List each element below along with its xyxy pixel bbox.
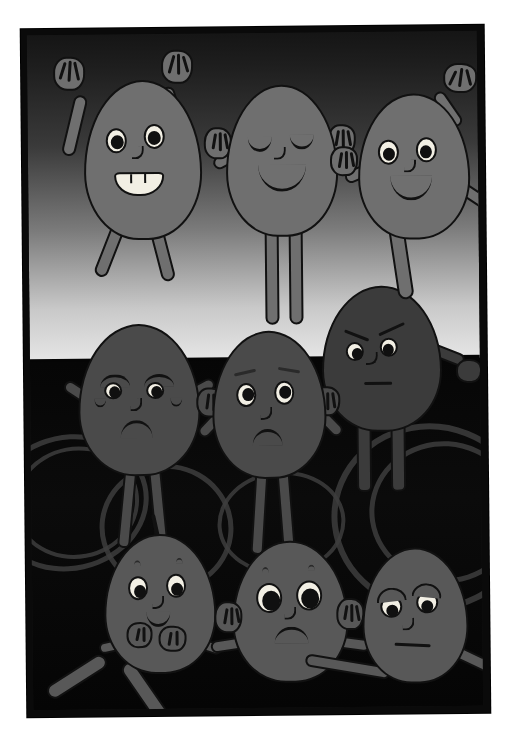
body: [225, 84, 338, 237]
finger: [175, 631, 178, 646]
character-middle-right: [321, 285, 442, 432]
character-bottom-left: [104, 533, 217, 674]
hand-left: [214, 601, 242, 633]
finger: [338, 152, 344, 168]
hand-right: [443, 63, 477, 93]
finger: [73, 62, 80, 81]
hand-right: [456, 359, 482, 383]
finger: [343, 605, 348, 620]
pupil-right: [383, 344, 394, 356]
finger: [182, 56, 190, 73]
pupil-left: [262, 591, 280, 611]
body: [362, 547, 469, 684]
pupil-right: [148, 131, 161, 145]
hand-right: [158, 626, 186, 652]
picture-inner: [27, 31, 483, 710]
pupil-right: [301, 588, 319, 608]
finger: [355, 605, 361, 621]
character-middle-left: [78, 324, 201, 477]
finger: [223, 608, 229, 624]
character-top-left: [83, 80, 203, 241]
pupil-right: [421, 600, 433, 612]
finger: [350, 152, 356, 167]
eye-left: [378, 140, 399, 165]
eye-left: [256, 583, 282, 613]
eye-right: [166, 574, 186, 598]
character-top-right: [357, 93, 470, 240]
finger: [135, 628, 141, 641]
finger: [331, 392, 336, 408]
finger: [205, 393, 210, 409]
finger: [345, 151, 348, 169]
pupil-right: [171, 583, 183, 596]
hand-left: [330, 146, 358, 176]
finger: [230, 607, 233, 625]
dimple-right: [308, 564, 315, 570]
character-bottom-right: [362, 547, 469, 684]
mouth: [364, 382, 392, 385]
eye-left: [236, 383, 256, 407]
finger: [212, 133, 218, 149]
eye-right: [380, 338, 398, 357]
dimple-left: [262, 567, 269, 573]
finger: [326, 392, 329, 410]
dimple-left: [134, 560, 141, 566]
dimple-right: [176, 558, 183, 564]
pupil-right: [420, 145, 432, 158]
pupil-right: [151, 386, 162, 398]
eye-right: [296, 580, 322, 610]
picture-frame: [21, 25, 491, 717]
pupil-left: [352, 348, 363, 360]
finger: [219, 132, 222, 151]
finger: [235, 608, 241, 623]
finger: [458, 68, 463, 87]
finger: [167, 632, 172, 646]
character-top-center: [225, 84, 338, 237]
tooth-line: [144, 174, 146, 183]
pupil-left: [242, 388, 254, 401]
eye-right: [144, 124, 165, 149]
eye-left: [346, 342, 364, 361]
eye-right: [416, 137, 437, 162]
finger: [177, 54, 180, 75]
tooth-line: [130, 174, 132, 183]
body: [212, 330, 327, 479]
finger: [350, 604, 353, 622]
finger: [448, 70, 458, 86]
hand-right: [336, 598, 364, 630]
hand-lower-right: [482, 211, 483, 239]
finger: [142, 627, 145, 642]
finger: [334, 130, 340, 146]
eye-right: [274, 381, 294, 405]
eye-left: [128, 576, 148, 600]
eye-left: [106, 128, 127, 153]
hand-right: [161, 50, 193, 84]
pupil-left: [383, 148, 395, 161]
finger: [58, 62, 66, 80]
pupil-left: [111, 135, 124, 149]
hand-left: [53, 57, 85, 91]
pupil-left: [109, 386, 120, 398]
character-middle-center: [212, 330, 327, 479]
hand-left: [126, 622, 152, 648]
body: [83, 80, 203, 241]
finger: [168, 55, 176, 74]
illustration-canvas: [0, 0, 506, 746]
pupil-right: [279, 386, 291, 399]
pupil-left: [386, 605, 398, 617]
finger: [346, 130, 352, 146]
eye-left: [104, 382, 122, 399]
finger: [67, 61, 71, 82]
eye-right: [146, 382, 164, 399]
finger: [465, 69, 472, 86]
body: [321, 285, 442, 432]
pupil-left: [134, 585, 146, 598]
